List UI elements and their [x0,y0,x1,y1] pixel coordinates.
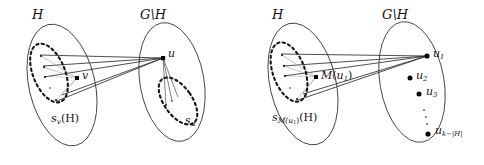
right-panel-label-u3: u3 [426,86,437,99]
right-panel-label-u2: u2 [416,70,427,83]
diagram-vector-layer: .outer{fill:none;stroke:#3f3f3f;stroke-w… [0,0,484,165]
left-panel-region-su [151,71,205,131]
left-panel-label-H: H [32,8,43,21]
left-panel-label-sv-H: sv(H) [51,113,79,126]
sMu1-arg: (H) [299,111,317,124]
right-panel-group [257,16,454,152]
uk-sub: k−|H| [442,130,462,138]
su-sub: u [191,119,196,128]
right-panel-label-GminusH: G\H [382,8,408,21]
u2-sub: 2 [423,75,427,83]
right-panel-label-H: H [272,8,283,21]
right-panel-vertex-Mu1 [314,75,318,79]
Mu1-M: M [321,69,332,82]
left-panel-edge-bundle-u-to-H [40,55,163,101]
left-panel-edge-bundle-v-to-H [41,56,77,100]
u3-sub: 3 [433,91,437,99]
left-panel-label-GminusH: G\H [140,8,166,21]
left-panel-set-H-outline [16,17,108,153]
left-panel-label-vertex-u: u [168,48,175,59]
right-panel-label-uk: uk−|H| [435,125,462,138]
left-panel-label-vertex-v: v [82,70,88,81]
right-panel-edge-bundle-u1-to-H [281,54,427,100]
right-panel-vertex-u2 [408,76,413,81]
Mu1-close: ) [348,69,352,82]
left-panel-group [16,17,214,153]
right-panel-label-vertex-Mu1: M(u1) [321,70,352,83]
right-panel-vertex-u3 [417,92,422,97]
right-panel-vertex-u1 [424,53,429,58]
right-panel-label-sMu1-H: sM(u1)(H) [272,112,317,125]
left-panel-vertex-v [75,76,79,80]
left-panel-vertex-u [161,56,165,60]
left-panel-label-su: su [185,115,195,128]
right-panel-edge-bundle-Mu1-to-H [282,55,316,99]
figure-canvas: .outer{fill:none;stroke:#3f3f3f;stroke-w… [0,0,484,165]
right-panel-label-u1: u1 [433,48,444,61]
Mu1-u: u [337,69,344,82]
sv-H-arg: (H) [61,112,79,125]
right-panel-vertical-ellipsis [423,109,428,125]
right-panel-vertex-uk [425,131,430,136]
u1-sub: 1 [440,53,444,61]
sMu1-sub-M: M(u [278,116,293,125]
right-panel-region-sMu1-H [263,37,314,106]
